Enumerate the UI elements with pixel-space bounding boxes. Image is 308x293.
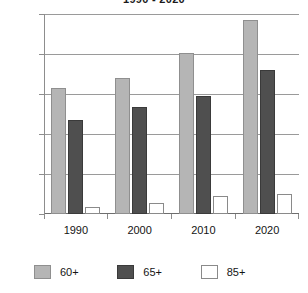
chart-legend: 60+ 65+ 85+ — [34, 265, 284, 279]
x-tick-mark-0 — [44, 214, 45, 219]
x-axis-ticks — [44, 214, 299, 222]
legend-swatch-icon-60plus — [34, 265, 51, 279]
legend-item-85plus: 85+ — [201, 265, 284, 279]
legend-swatch-icon-65plus — [117, 265, 134, 279]
y-tick-mark-0.10 — [39, 134, 44, 135]
x-tick-mark-4 — [298, 214, 299, 219]
x-label-1990: 1990 — [44, 224, 108, 236]
legend-swatch-icon-85plus — [201, 265, 218, 279]
x-tick-mark-3 — [235, 214, 236, 219]
legend-item-60plus: 60+ — [34, 265, 117, 279]
y-tick-mark-0.20 — [39, 54, 44, 55]
x-tick-mark-1 — [107, 214, 108, 219]
legend-item-65plus: 65+ — [117, 265, 200, 279]
legend-label-60plus: 60+ — [60, 266, 79, 278]
y-axis-ticks: 0.25 0.2 0.15 0.1 0.05 0 — [44, 14, 299, 214]
y-tick-mark-0.05 — [39, 174, 44, 175]
x-label-2020: 2020 — [235, 224, 299, 236]
legend-label-85plus: 85+ — [227, 266, 246, 278]
x-label-2000: 2000 — [108, 224, 172, 236]
bar-chart: 1990 - 2020 — [0, 0, 308, 293]
chart-title: 1990 - 2020 — [0, 0, 308, 5]
y-tick-mark-0.15 — [39, 94, 44, 95]
x-tick-mark-2 — [171, 214, 172, 219]
x-axis-labels: 1990 2000 2010 2020 — [44, 224, 299, 236]
y-tick-mark-0.25 — [39, 14, 44, 15]
x-label-2010: 2010 — [172, 224, 236, 236]
legend-label-65plus: 65+ — [143, 266, 162, 278]
